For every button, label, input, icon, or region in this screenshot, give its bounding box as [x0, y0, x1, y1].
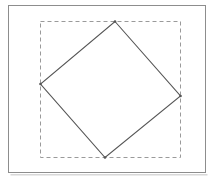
vertex-bottom-marker — [104, 156, 107, 159]
outer-frame — [9, 6, 206, 173]
vertex-left-marker — [39, 83, 42, 86]
geometry-diagram: Rotated square inscribed in its axis-ali… — [0, 0, 214, 183]
figure-root: Rotated square inscribed in its axis-ali… — [0, 0, 214, 183]
vertex-right-marker — [179, 95, 182, 98]
frame-drop-shadow — [11, 174, 208, 176]
vertex-top-marker — [114, 20, 117, 23]
